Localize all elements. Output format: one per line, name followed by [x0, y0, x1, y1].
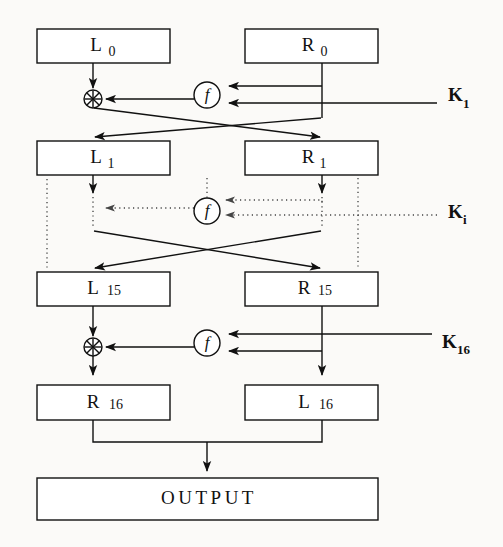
box-R15: R 15	[245, 272, 378, 306]
box-output-label: OUTPUT	[161, 487, 257, 508]
box-R15-label: R	[298, 277, 311, 298]
box-L15-rect	[37, 272, 170, 306]
edge-xor1-to-R1	[94, 108, 320, 137]
box-L1: L 1	[37, 141, 170, 175]
key-Ki-base: K	[448, 201, 463, 222]
f-round-i: f	[194, 198, 220, 224]
xor-round-16	[84, 338, 102, 356]
key-K16-subscript: 16	[457, 342, 471, 357]
box-R1-label: R	[302, 146, 315, 167]
key-label-Ki: K i	[448, 201, 467, 227]
edge-R0-to-L1	[95, 118, 321, 137]
key-K1-subscript: 1	[463, 96, 470, 111]
box-L16-rect	[245, 385, 378, 420]
box-L15-label: L	[87, 277, 99, 298]
edge-merge-bus	[93, 420, 322, 442]
box-R16-label: R	[87, 391, 100, 412]
box-L0-subscript: 0	[109, 44, 116, 59]
key-K16-base: K	[442, 331, 457, 352]
box-output: OUTPUT	[37, 478, 378, 520]
box-L15-subscript: 15	[107, 283, 121, 298]
box-L0-rect	[37, 29, 170, 63]
box-L0: L 0	[37, 29, 170, 63]
xor-round-1	[84, 90, 102, 108]
feistel-diagram: L 0 R 0 f	[0, 0, 503, 547]
box-R16-rect	[37, 385, 170, 420]
box-R1: R 1	[245, 141, 378, 175]
box-R0-label: R	[302, 34, 315, 55]
box-R16-subscript: 16	[109, 397, 123, 412]
box-L1-rect	[37, 141, 170, 175]
box-R1-subscript: 1	[320, 156, 327, 171]
edge-Ri-to-fi	[226, 200, 322, 202]
box-L1-subscript: 1	[108, 156, 115, 171]
box-L16-subscript: 16	[319, 397, 333, 412]
box-R0: R 0	[245, 29, 378, 63]
f-round-16: f	[194, 330, 220, 356]
box-L16-label: L	[298, 391, 310, 412]
box-L0-label: L	[90, 34, 102, 55]
box-L16: L 16	[245, 385, 378, 420]
feistel-network-canvas: L 0 R 0 f	[0, 0, 503, 547]
f-round-1: f	[194, 82, 220, 108]
box-R16: R 16	[37, 385, 170, 420]
key-label-K1: K 1	[448, 84, 470, 111]
box-R15-subscript: 15	[318, 283, 332, 298]
box-R0-subscript: 0	[321, 44, 328, 59]
key-K1-base: K	[448, 84, 463, 105]
box-L1-label: L	[90, 146, 102, 167]
key-label-K16: K 16	[442, 331, 471, 357]
box-R15-rect	[245, 272, 378, 306]
key-Ki-subscript: i	[463, 212, 467, 227]
box-L15: L 15	[37, 272, 170, 306]
